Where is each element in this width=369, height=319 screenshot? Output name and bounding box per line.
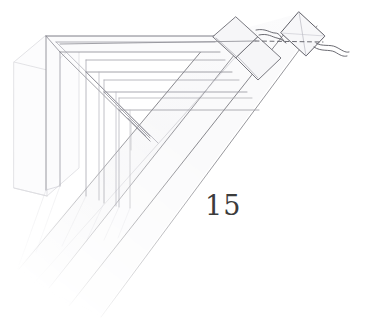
figure-number-caption: 15	[205, 191, 241, 221]
figure-root: 15	[0, 0, 369, 319]
motion-lines-trailing	[314, 43, 349, 56]
figure-line-art	[0, 0, 369, 319]
